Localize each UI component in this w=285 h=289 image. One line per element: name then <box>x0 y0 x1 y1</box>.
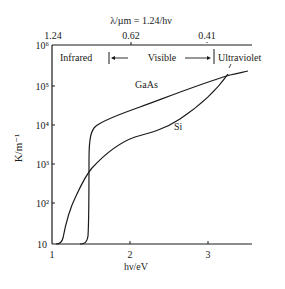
y-tick-label-6: 10⁶ <box>36 40 50 51</box>
y-tick-label-1: 10 <box>37 239 47 250</box>
y-tick-label-3: 10³ <box>36 159 49 170</box>
y-tick-label-5: 10⁵ <box>36 81 50 92</box>
absorption-chart: 10⁶ 10⁵ 10⁴ 10³ 10² 10 K/m⁻¹ 1 2 3 hν/eV… <box>0 0 285 289</box>
series-gaas-line <box>80 71 248 244</box>
top-axis-title: λ/µm = 1.24/hν <box>110 15 172 26</box>
series-gaas-label: GaAs <box>135 79 158 90</box>
region-visible-label: Visible <box>148 52 177 63</box>
arrow-right-icon <box>207 56 211 60</box>
top-tick-label-2: 0.62 <box>122 30 140 41</box>
top-tick-label-3: 0.41 <box>198 30 216 41</box>
uv-pointer <box>229 64 231 68</box>
region-ultraviolet-label: Ultraviolet <box>218 52 262 63</box>
series-si-line <box>56 74 228 244</box>
region-infrared-label: Infrared <box>60 52 92 63</box>
y-tick-label-2: 10² <box>36 198 49 209</box>
x-tick-label-1: 1 <box>50 249 55 260</box>
top-tick-label-1: 1.24 <box>44 30 62 41</box>
y-tick-label-4: 10⁴ <box>36 120 50 131</box>
x-tick-label-3: 3 <box>206 249 211 260</box>
x-axis-label: hν/eV <box>124 261 149 272</box>
series-si-label: Si <box>174 121 183 132</box>
x-tick-label-2: 2 <box>128 249 133 260</box>
y-axis-label: K/m⁻¹ <box>12 134 24 163</box>
arrow-left-icon <box>111 56 115 60</box>
